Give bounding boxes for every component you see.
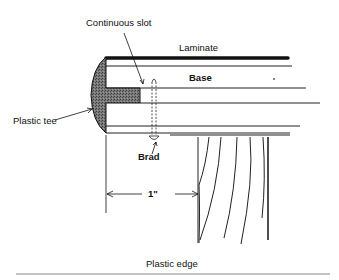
plastic-tee-leader: [55, 109, 92, 120]
label-continuous-slot: Continuous slot: [86, 17, 151, 28]
label-base: Base: [189, 72, 212, 83]
dimension-1in: [106, 135, 198, 213]
plastic-edge-diagram: [0, 0, 339, 280]
diagram-caption: Plastic edge: [146, 258, 198, 269]
label-dimension: 1": [148, 188, 158, 199]
wood-block: [170, 135, 290, 244]
label-laminate: Laminate: [179, 42, 218, 53]
label-plastic-tee: Plastic tee: [13, 115, 57, 126]
plastic-tee: [91, 57, 140, 133]
label-brad: Brad: [138, 151, 160, 162]
